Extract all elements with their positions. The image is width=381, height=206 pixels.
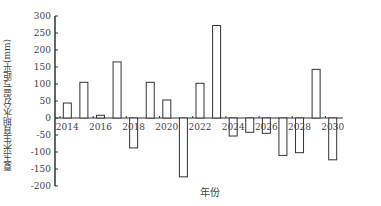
x-axis-title: 年份 — [200, 184, 220, 199]
bar-2020 — [163, 100, 171, 118]
bar-chart: 300250200150100500-50-100-150-2002014201… — [0, 0, 381, 206]
bar-2022 — [196, 83, 204, 118]
bar-2025 — [246, 118, 254, 132]
y-tick-label: -100 — [31, 147, 51, 157]
y-tick-label: 150 — [34, 62, 51, 72]
y-tick-label: 0 — [45, 113, 51, 123]
y-axis-title: 夏玉米生育期水分盈亏距平(mm) — [2, 30, 16, 180]
bar-2023 — [213, 26, 221, 118]
y-tick-label: -150 — [31, 164, 51, 174]
x-tick-label: 2022 — [189, 122, 212, 132]
y-tick-label: 50 — [40, 96, 52, 106]
y-tick-label: -200 — [31, 181, 51, 191]
x-tick-label: 2028 — [288, 122, 311, 132]
bar-2021 — [179, 118, 187, 177]
x-tick-label: 2020 — [155, 122, 178, 132]
x-tick-label: 2030 — [321, 122, 344, 132]
x-tick-label: 2014 — [56, 122, 79, 132]
bar-2019 — [146, 82, 154, 118]
bar-2016 — [96, 115, 104, 118]
y-tick-label: 250 — [34, 28, 51, 38]
x-tick-label: 2026 — [255, 122, 278, 132]
x-tick-label: 2016 — [89, 122, 112, 132]
bar-2027 — [279, 118, 287, 155]
x-tick-label: 2024 — [222, 122, 245, 132]
bar-2029 — [312, 69, 320, 118]
bar-2017 — [113, 62, 121, 118]
bar-2014 — [63, 103, 71, 118]
y-tick-label: -50 — [37, 130, 52, 140]
y-tick-label: 300 — [34, 11, 51, 21]
bar-2015 — [80, 82, 88, 118]
y-tick-label: 200 — [34, 45, 51, 55]
x-tick-label: 2018 — [122, 122, 145, 132]
y-tick-label: 100 — [34, 79, 51, 89]
